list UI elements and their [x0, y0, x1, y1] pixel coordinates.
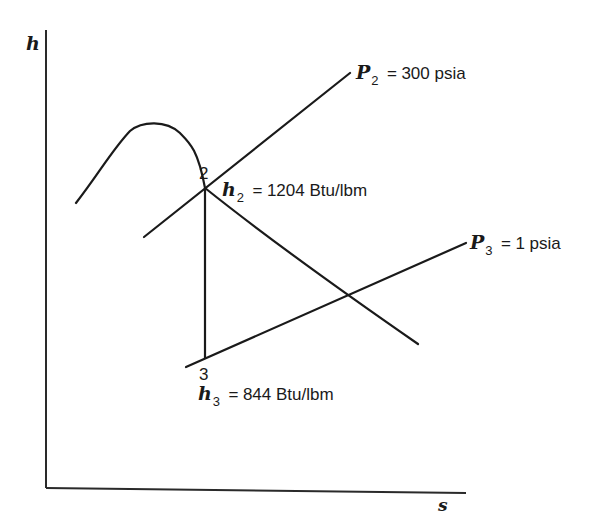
- p3-equals: =: [501, 234, 511, 253]
- h3-value: 844 Btu/lbm: [243, 385, 334, 404]
- saturation-dome-curve: [76, 123, 418, 344]
- hs-diagram: [0, 0, 593, 524]
- x-axis: [46, 488, 466, 493]
- h2-equals: =: [253, 181, 263, 200]
- h3-symbol: h: [198, 382, 212, 404]
- p2-subscript: 2: [371, 73, 378, 88]
- y-axis-label: h: [26, 34, 40, 53]
- x-axis-label: s: [438, 497, 448, 514]
- p2-value: 300 psia: [401, 64, 465, 83]
- h2-symbol: h: [222, 178, 236, 200]
- h3-equals: =: [229, 385, 239, 404]
- p2-equals: =: [387, 64, 397, 83]
- h2-value: 1204 Btu/lbm: [267, 181, 367, 200]
- h3-subscript: 3: [213, 394, 220, 409]
- isobar-p2-line: [144, 73, 350, 237]
- p3-symbol: P: [470, 231, 484, 253]
- isobar-p3-label: P3 = 1 psia: [470, 233, 561, 252]
- h2-subscript: 2: [237, 190, 244, 205]
- p3-value: 1 psia: [515, 234, 560, 253]
- p2-symbol: P: [356, 61, 370, 83]
- state-3-enthalpy-label: h3 = 844 Btu/lbm: [198, 384, 334, 403]
- state-2-label: 2: [199, 165, 208, 182]
- isobar-p3-line: [186, 243, 466, 367]
- p3-subscript: 3: [485, 243, 492, 258]
- isobar-p2-label: P2 = 300 psia: [356, 63, 466, 82]
- state-2-enthalpy-label: h2 = 1204 Btu/lbm: [222, 180, 367, 199]
- state-3-label: 3: [199, 366, 208, 383]
